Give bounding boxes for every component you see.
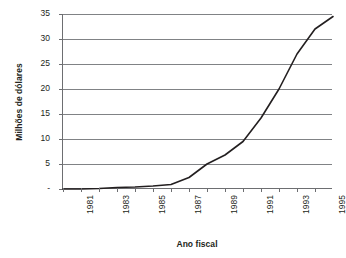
data-series-line [63,14,333,189]
y-axis-tick-label: 20 [22,84,50,93]
x-axis-tick-label: 1987 [194,195,203,235]
x-axis-title: Ano fiscal [62,239,332,249]
y-axis-tick-label: 10 [22,134,50,143]
line-chart: Milhões de dólares -5101520253035 198119… [0,0,346,258]
x-axis-tick-label: 1981 [86,195,95,235]
x-axis-tick-label: 1983 [122,195,131,235]
y-axis-tick-labels: -5101520253035 [22,0,50,258]
x-axis-tick-label: 1991 [266,195,275,235]
x-axis-tick-label: 1993 [302,195,311,235]
y-axis-tick-label: 30 [22,34,50,43]
y-axis-tick-label: - [22,184,50,193]
y-axis-tick-label: 5 [22,159,50,168]
x-axis-tick-labels: 19811983198519871989199119931995 [62,189,332,235]
x-axis-tick-label: 1989 [230,195,239,235]
y-axis-tick-label: 25 [22,59,50,68]
y-axis-tick-label: 15 [22,109,50,118]
plot-area [62,14,332,189]
x-axis-tick-label: 1995 [338,195,346,235]
y-axis-tick-label: 35 [22,9,50,18]
x-axis-tick-label: 1985 [158,195,167,235]
